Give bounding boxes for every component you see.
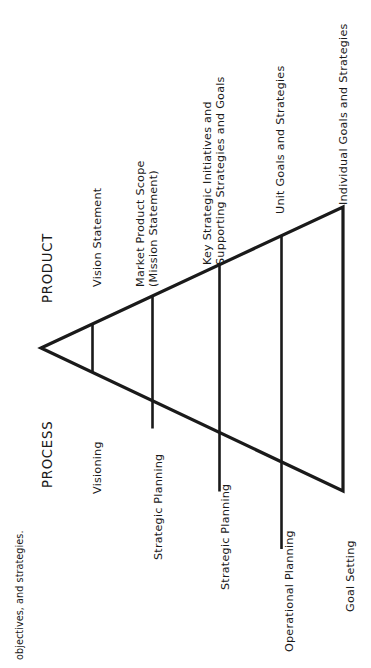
- triangle-diagram-shape: [0, 0, 371, 668]
- planning-triangle-figure: objectives, and strategies. PRODUCT PROC…: [0, 0, 371, 668]
- triangle-outline: [41, 207, 343, 491]
